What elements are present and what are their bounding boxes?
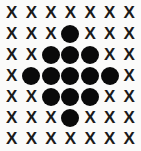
x-mark-icon: X [26, 4, 37, 21]
x-mark-icon: X [104, 25, 115, 42]
grid-cell-x: X [41, 128, 61, 149]
x-mark-icon: X [104, 88, 115, 105]
grid-cell-x: X [100, 2, 120, 23]
x-mark-icon: X [84, 25, 95, 42]
x-mark-icon: X [6, 25, 17, 42]
grid-cell-x: X [2, 2, 22, 23]
grid-cell-dot [80, 86, 100, 107]
x-mark-icon: X [45, 25, 56, 42]
grid-cell-x: X [41, 107, 61, 128]
x-mark-icon: X [124, 4, 135, 21]
filled-dot-icon [42, 46, 60, 64]
grid-cell-x: X [22, 128, 42, 149]
grid-cell-dot [41, 65, 61, 86]
grid-cell-dot [61, 65, 81, 86]
grid-body: XXXXXXXXXXXXXXXXXXXXXXXXXXXXXXXXXXXX [0, 0, 141, 151]
grid-cell-dot [80, 65, 100, 86]
x-mark-icon: X [104, 4, 115, 21]
x-mark-icon: X [124, 88, 135, 105]
grid-cell-dot [61, 107, 81, 128]
x-mark-icon: X [45, 109, 56, 126]
x-mark-icon: X [26, 109, 37, 126]
grid-cell-dot [41, 44, 61, 65]
x-mark-icon: X [26, 46, 37, 63]
grid-cell-x: X [22, 23, 42, 44]
x-mark-icon: X [65, 4, 76, 21]
grid-cell-x: X [119, 128, 139, 149]
grid-cell-x: X [2, 65, 22, 86]
filled-dot-icon [81, 88, 99, 106]
grid-cell-x: X [119, 65, 139, 86]
x-mark-icon: X [84, 4, 95, 21]
grid-cell-x: X [22, 107, 42, 128]
filled-dot-icon [42, 88, 60, 106]
grid-cell-x: X [2, 23, 22, 44]
grid-cell-x: X [22, 2, 42, 23]
filled-dot-icon [61, 109, 79, 127]
grid-cell-x: X [2, 107, 22, 128]
x-mark-icon: X [6, 4, 17, 21]
x-mark-icon: X [124, 130, 135, 147]
x-mark-icon: X [6, 88, 17, 105]
grid-cell-x: X [100, 23, 120, 44]
filled-dot-icon [81, 67, 99, 85]
grid-cell-dot [61, 86, 81, 107]
grid-cell-x: X [61, 2, 81, 23]
x-mark-icon: X [124, 109, 135, 126]
filled-dot-icon [81, 46, 99, 64]
grid-cell-x: X [61, 128, 81, 149]
x-mark-icon: X [6, 46, 17, 63]
grid-cell-x: X [22, 86, 42, 107]
x-mark-icon: X [26, 130, 37, 147]
grid-cell-x: X [80, 2, 100, 23]
grid-cell-x: X [2, 128, 22, 149]
x-mark-icon: X [6, 67, 17, 84]
x-mark-icon: X [45, 4, 56, 21]
grid-cell-x: X [80, 128, 100, 149]
grid-cell-x: X [41, 23, 61, 44]
x-mark-icon: X [104, 46, 115, 63]
grid-cell-x: X [119, 23, 139, 44]
x-mark-icon: X [6, 109, 17, 126]
grid-cell-x: X [41, 2, 61, 23]
filled-dot-icon [101, 67, 119, 85]
x-mark-icon: X [124, 25, 135, 42]
x-mark-icon: X [6, 130, 17, 147]
grid-cell-x: X [2, 86, 22, 107]
filled-dot-icon [61, 67, 79, 85]
filled-dot-icon [61, 88, 79, 106]
x-mark-icon: X [26, 88, 37, 105]
grid-cell-x: X [2, 44, 22, 65]
x-mark-icon: X [104, 130, 115, 147]
x-mark-icon: X [124, 67, 135, 84]
filled-dot-icon [22, 67, 40, 85]
grid-cell-dot [80, 44, 100, 65]
x-mark-icon: X [65, 130, 76, 147]
grid-cell-dot [41, 86, 61, 107]
grid-cell-dot [61, 23, 81, 44]
x-mark-icon: X [124, 46, 135, 63]
grid-cell-x: X [119, 86, 139, 107]
grid-cell-x: X [119, 2, 139, 23]
grid-cell-x: X [100, 128, 120, 149]
grid-cell-dot [100, 65, 120, 86]
grid-cell-dot [22, 65, 42, 86]
grid-cell-x: X [80, 23, 100, 44]
grid-cell-x: X [22, 44, 42, 65]
grid-cell-x: X [100, 107, 120, 128]
grid-cell-x: X [80, 107, 100, 128]
x-mark-icon: X [45, 130, 56, 147]
grid-figure: XXXXXXXXXXXXXXXXXXXXXXXXXXXXXXXXXXXX [0, 0, 141, 151]
grid-cell-dot [61, 44, 81, 65]
grid-cell-x: X [119, 44, 139, 65]
grid-cell-x: X [100, 86, 120, 107]
x-mark-icon: X [26, 25, 37, 42]
x-mark-icon: X [104, 109, 115, 126]
grid-cell-x: X [100, 44, 120, 65]
filled-dot-icon [42, 67, 60, 85]
x-mark-icon: X [84, 130, 95, 147]
grid-cell-x: X [119, 107, 139, 128]
filled-dot-icon [61, 46, 79, 64]
filled-dot-icon [61, 25, 79, 43]
x-mark-icon: X [84, 109, 95, 126]
